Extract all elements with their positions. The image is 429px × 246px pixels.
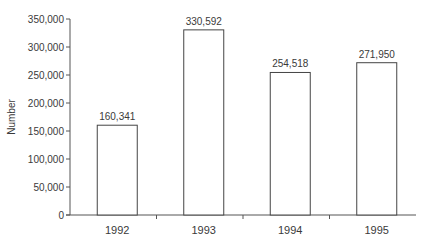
y-axis-label: Number (6, 99, 17, 135)
bar-1995 (357, 63, 397, 215)
bar-value-label: 271,950 (359, 49, 396, 60)
bar-1993 (184, 30, 224, 215)
y-tick-label: 0 (58, 210, 64, 221)
bar-chart: 050,000100,000150,000200,000250,000300,0… (0, 0, 429, 246)
x-tick-label: 1994 (278, 224, 302, 236)
bar-value-label: 160,341 (99, 111, 136, 122)
y-tick-label: 50,000 (33, 182, 64, 193)
x-tick-label: 1993 (192, 224, 216, 236)
x-tick-label: 1992 (105, 224, 129, 236)
bar-value-label: 254,518 (272, 58, 309, 69)
y-tick-label: 100,000 (28, 154, 65, 165)
y-tick-label: 150,000 (28, 126, 65, 137)
y-tick-label: 300,000 (28, 42, 65, 53)
bar-value-label: 330,592 (186, 16, 223, 27)
y-tick-label: 350,000 (28, 14, 65, 25)
y-tick-label: 200,000 (28, 98, 65, 109)
bar-1994 (270, 72, 310, 215)
x-axis: 1992199319941995 (66, 215, 416, 236)
bar-1992 (97, 125, 137, 215)
y-axis: 050,000100,000150,000200,000250,000300,0… (28, 14, 70, 221)
x-tick-label: 1995 (365, 224, 389, 236)
y-tick-label: 250,000 (28, 70, 65, 81)
bars: 160,341330,592254,518271,950 (97, 16, 397, 215)
